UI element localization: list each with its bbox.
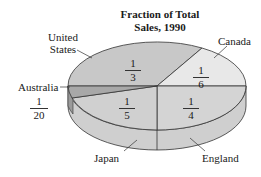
australia-num: 1 <box>30 96 48 109</box>
value-japan: 1 5 <box>119 96 135 121</box>
value-united-states: 1 3 <box>125 58 141 83</box>
label-australia: Australia <box>18 81 58 93</box>
callout-us <box>77 50 92 58</box>
us-num: 1 <box>125 58 141 71</box>
japan-den: 5 <box>119 109 135 121</box>
label-canada: Canada <box>218 35 251 47</box>
label-us-line2: States <box>47 43 79 55</box>
label-england: England <box>202 152 239 164</box>
canada-num: 1 <box>193 65 209 78</box>
canada-den: 6 <box>193 78 209 90</box>
label-japan: Japan <box>94 152 119 164</box>
label-us-line1: United <box>47 31 79 43</box>
japan-num: 1 <box>119 96 135 109</box>
value-england: 1 4 <box>183 96 199 121</box>
value-australia: 1 20 <box>30 96 48 121</box>
us-den: 3 <box>125 71 141 83</box>
england-num: 1 <box>183 96 199 109</box>
england-den: 4 <box>183 109 199 121</box>
australia-den: 20 <box>30 109 48 121</box>
value-canada: 1 6 <box>193 65 209 90</box>
label-united-states: United States <box>47 31 79 55</box>
